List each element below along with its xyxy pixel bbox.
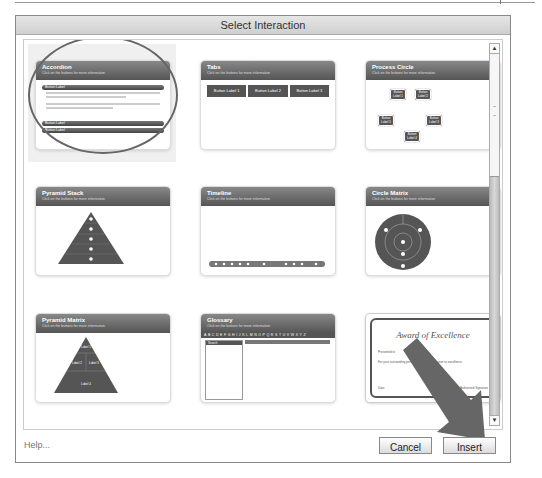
- selection-circle-annotation: [28, 39, 178, 154]
- tile-title: Pyramid Matrix: [42, 316, 164, 324]
- tile-subtitle: Click on the buttons for more informatio…: [207, 197, 329, 202]
- tile-subtitle: Click on the buttons for more informatio…: [207, 324, 329, 329]
- tile-timeline[interactable]: TimelineClick on the buttons for more in…: [200, 186, 336, 276]
- dialog-title: Select Interaction: [16, 16, 510, 35]
- tile-title: Tabs: [207, 63, 329, 71]
- circle-matrix-graphic: [366, 206, 500, 276]
- pyramid-graphic: [36, 206, 170, 276]
- tab-button: Button Label 2: [248, 85, 287, 97]
- insert-button[interactable]: Insert: [443, 437, 496, 454]
- tile-title: Pyramid Stack: [42, 189, 164, 197]
- svg-text:Label 4: Label 4: [81, 382, 91, 386]
- cancel-button[interactable]: Cancel: [379, 437, 432, 454]
- tile-subtitle: Click on the buttons for more informatio…: [372, 197, 494, 202]
- tile-title: Process Circle: [372, 63, 494, 71]
- tile-circle-matrix[interactable]: Circle MatrixClick on the buttons for mo…: [365, 186, 501, 276]
- tile-title: Circle Matrix: [372, 189, 494, 197]
- tile-subtitle: Click on the buttons for more informatio…: [42, 197, 164, 202]
- tab-button: Button Label 3: [290, 85, 329, 97]
- scroll-up-button[interactable]: ▲: [490, 44, 499, 54]
- tile-subtitle: Click on the buttons for more informatio…: [207, 71, 329, 76]
- certificate-presented: Presented to: [378, 350, 395, 354]
- process-node: Button Label 3: [426, 115, 442, 126]
- help-link[interactable]: Help...: [24, 440, 50, 450]
- svg-text:Label 2: Label 2: [72, 361, 82, 365]
- tile-process-circle[interactable]: Process CircleClick on the buttons for m…: [365, 60, 501, 150]
- top-divider: [15, 0, 535, 3]
- process-node: Button Label 4: [404, 131, 420, 142]
- tile-tabs[interactable]: TabsClick on the buttons for more inform…: [200, 60, 336, 150]
- glossary-alphabet: ABCDEFGHIJKLMNOPQRSTUVWXYZ: [201, 333, 335, 338]
- certificate-date: Date: [378, 386, 384, 390]
- tile-title: Timeline: [207, 189, 329, 197]
- tile-pyramid-stack[interactable]: Pyramid StackClick on the buttons for mo…: [35, 186, 171, 276]
- process-node: Button Label 2: [415, 89, 431, 100]
- process-node: Button Label 1: [390, 89, 406, 100]
- timeline-graphic: [201, 206, 335, 276]
- tile-pyramid-matrix[interactable]: Pyramid MatrixClick on the buttons for m…: [35, 313, 171, 403]
- pyramid-matrix-graphic: Label 1Label 2Label 3Label 4: [36, 333, 170, 403]
- scroll-thumb[interactable]: [490, 54, 499, 177]
- tile-title: Glossary: [207, 316, 329, 324]
- tile-subtitle: Click on the buttons for more informatio…: [42, 324, 164, 329]
- svg-text:Label 3: Label 3: [89, 361, 99, 365]
- svg-text:Label 1: Label 1: [81, 345, 91, 349]
- arrow-annotation-icon: [395, 336, 505, 448]
- glossary-search: Search: [206, 341, 242, 345]
- process-node: Button Label 5: [378, 115, 394, 126]
- tile-subtitle: Click on the buttons for more informatio…: [372, 71, 494, 76]
- tab-button: Button Label 1: [207, 85, 246, 97]
- tile-glossary[interactable]: GlossaryClick on the buttons for more in…: [200, 313, 336, 403]
